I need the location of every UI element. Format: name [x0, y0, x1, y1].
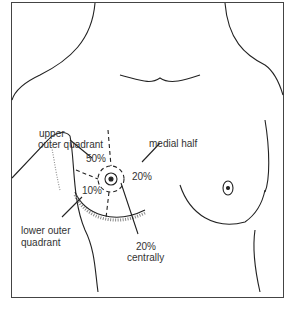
breast-quadrant-diagram: upper outer quadrant 50% medial half 20%… — [0, 0, 294, 316]
label-medial-half: medial half — [149, 138, 197, 149]
label-upper-outer-line1: upper — [39, 128, 65, 139]
label-centrally: centrally — [127, 252, 164, 263]
label-lower-outer-percent: 10% — [82, 185, 102, 196]
label-lower-outer-line2: quadrant — [21, 237, 60, 248]
label-lower-outer-line1: lower outer — [21, 225, 70, 236]
body-illustration — [0, 0, 294, 316]
label-upper-outer-line2: outer quadrant — [38, 139, 103, 150]
label-upper-outer-percent: 50% — [86, 153, 106, 164]
label-medial-percent: 20% — [132, 171, 152, 182]
label-central-percent: 20% — [136, 241, 156, 252]
